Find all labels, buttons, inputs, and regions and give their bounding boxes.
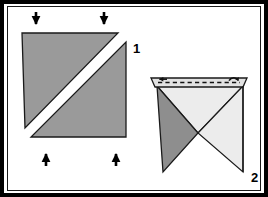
diagram-canvas: 1 2: [0, 0, 268, 197]
outer-frame-border: [0, 0, 268, 197]
